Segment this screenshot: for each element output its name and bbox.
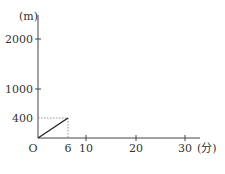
x-tick-label-30: 30 — [178, 142, 192, 155]
distance-series-line — [38, 118, 68, 138]
y-tick-label-400: 400 — [12, 112, 33, 125]
y-tick-label-1000: 1000 — [5, 83, 33, 96]
y-tick-label-2000: 2000 — [5, 33, 33, 46]
y-unit-label: (m) — [19, 10, 38, 23]
x-tick-label-20: 20 — [129, 142, 143, 155]
x-tick-label-10: 10 — [79, 142, 93, 155]
distance-time-chart: (m) 2000 1000 400 O 6 10 20 30 (分) — [0, 0, 225, 174]
origin-label: O — [28, 142, 37, 155]
x-unit-label: (分) — [197, 142, 217, 155]
x-tick-label-6: 6 — [65, 142, 72, 155]
